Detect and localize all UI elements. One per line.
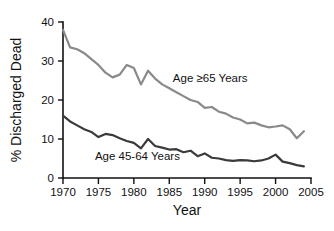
y-tick-labels: 010203040 (41, 16, 54, 184)
x-tick-label: 2005 (298, 186, 324, 198)
series-lines (63, 30, 304, 167)
y-tick-label: 40 (41, 16, 54, 28)
x-axis-ticks (63, 178, 311, 184)
x-tick-label: 1985 (156, 186, 182, 198)
x-tick-label: 1995 (227, 186, 253, 198)
x-tick-label: 1980 (121, 186, 147, 198)
x-tick-label: 1990 (192, 186, 218, 198)
x-axis-title: Year (173, 202, 202, 218)
y-tick-label: 10 (41, 133, 54, 145)
x-tick-label: 1975 (86, 186, 112, 198)
x-tick-label: 1970 (50, 186, 76, 198)
y-tick-label: 0 (48, 172, 54, 184)
y-axis-title: % Discharged Dead (8, 38, 24, 163)
x-tick-label: 2000 (263, 186, 289, 198)
line-chart-plot: 010203040 197019751980198519901995200020… (0, 0, 334, 231)
series-label-1: Age ≥65 Years (173, 72, 248, 84)
y-tick-label: 20 (41, 94, 54, 106)
x-tick-labels: 19701975198019851990199520002005 (50, 186, 324, 198)
series-label-2: Age 45-64 Years (95, 150, 180, 162)
y-tick-label: 30 (41, 55, 54, 67)
chart-container: 010203040 197019751980198519901995200020… (0, 0, 334, 231)
